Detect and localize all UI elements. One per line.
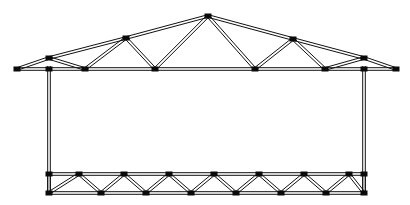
roof-top-chord-0-edge-a bbox=[17, 59, 49, 70]
floor-diagonal-5-edge-a bbox=[168, 175, 190, 194]
joints-group bbox=[14, 14, 400, 196]
roof-web-4-edge-b bbox=[209, 15, 256, 68]
roof-web-2-edge-b bbox=[127, 37, 156, 68]
joint-left-upper-panel bbox=[123, 36, 130, 41]
roof-web-3-edge-b bbox=[156, 17, 209, 70]
roof-top-chord-5-edge-a bbox=[364, 59, 396, 70]
joint-right-upper-panel bbox=[290, 37, 297, 42]
joint-floor-bottom-right bbox=[361, 191, 368, 196]
joint-floor-bottom-5 bbox=[278, 191, 285, 196]
roof-top-chord-3-edge-b bbox=[208, 15, 293, 38]
floor-diagonal-6-edge-a bbox=[192, 175, 215, 194]
truss-diagram-canvas bbox=[0, 0, 410, 205]
joint-left-eave-tip bbox=[14, 67, 21, 72]
floor-diagonal-1-edge-b bbox=[80, 173, 102, 192]
floor-diagonal-2-edge-a bbox=[102, 175, 125, 194]
floor-diagonal-1-edge-a bbox=[78, 175, 100, 194]
joint-bottom-chord-3 bbox=[252, 67, 259, 72]
roof-web-0-edge-a bbox=[49, 59, 85, 70]
floor-diagonal-4-edge-a bbox=[147, 175, 170, 194]
floor-diagonal-4-edge-b bbox=[145, 173, 168, 192]
joint-floor-bottom-4 bbox=[233, 191, 240, 196]
floor-diagonal-10-edge-b bbox=[280, 173, 303, 192]
roof-truss-group bbox=[17, 15, 397, 71]
floor-diagonal-7-edge-b bbox=[215, 173, 237, 192]
roof-top-chord-1-edge-a bbox=[49, 39, 126, 59]
joint-floor-bottom-3 bbox=[188, 191, 195, 196]
roof-web-5-edge-b bbox=[256, 40, 294, 70]
joint-floor-top-7 bbox=[346, 172, 353, 177]
roof-web-5-edge-a bbox=[254, 38, 292, 68]
joint-floor-top-2 bbox=[121, 172, 128, 177]
floor-diagonal-8-edge-b bbox=[235, 173, 258, 192]
floor-truss-group bbox=[48, 173, 366, 195]
roof-web-3-edge-a bbox=[154, 15, 207, 68]
joint-floor-top-1 bbox=[76, 172, 83, 177]
roof-web-2-edge-a bbox=[125, 39, 154, 70]
floor-diagonal-5-edge-b bbox=[170, 173, 192, 192]
joint-floor-bottom-1 bbox=[98, 191, 105, 196]
joint-right-eave-tip bbox=[393, 67, 400, 72]
floor-diagonal-3-edge-b bbox=[125, 173, 147, 192]
floor-diagonal-8-edge-a bbox=[237, 175, 260, 194]
roof-top-chord-1-edge-b bbox=[49, 37, 126, 57]
joint-floor-top-6 bbox=[301, 172, 308, 177]
floor-diagonal-6-edge-b bbox=[190, 173, 213, 192]
floor-diagonal-7-edge-a bbox=[213, 175, 235, 194]
roof-top-chord-4-edge-a bbox=[293, 40, 364, 59]
joint-apex bbox=[205, 14, 212, 19]
roof-web-1-edge-a bbox=[84, 37, 125, 68]
joint-floor-bottom-6 bbox=[323, 191, 330, 196]
floor-diagonal-3-edge-a bbox=[123, 175, 145, 194]
floor-diagonal-9-edge-a bbox=[258, 175, 280, 194]
joint-bottom-chord-1 bbox=[82, 67, 89, 72]
roof-web-1-edge-b bbox=[86, 39, 127, 70]
truss-drawing bbox=[0, 0, 410, 205]
roof-web-7-edge-a bbox=[325, 57, 364, 68]
joint-left-eave-top bbox=[46, 56, 53, 61]
joint-right-column-top bbox=[361, 67, 368, 72]
floor-diagonal-11-edge-a bbox=[303, 175, 325, 194]
floor-diagonal-11-edge-b bbox=[305, 173, 327, 192]
joint-floor-top-4 bbox=[211, 172, 218, 177]
floor-diagonal-12-edge-a bbox=[327, 175, 350, 194]
roof-web-0-edge-b bbox=[49, 57, 85, 68]
roof-web-7-edge-b bbox=[325, 59, 364, 70]
joint-right-eave-top bbox=[361, 56, 368, 61]
floor-diagonal-10-edge-a bbox=[282, 175, 305, 194]
joint-left-column-top bbox=[46, 67, 53, 72]
joint-floor-top-right bbox=[361, 172, 368, 177]
joint-floor-bottom-left bbox=[46, 191, 53, 196]
joint-bottom-chord-4 bbox=[322, 67, 329, 72]
roof-top-chord-2-edge-b bbox=[126, 15, 208, 37]
joint-bottom-chord-2 bbox=[152, 67, 159, 72]
floor-diagonal-9-edge-b bbox=[260, 173, 282, 192]
floor-diagonal-12-edge-b bbox=[325, 173, 348, 192]
roof-top-chord-2-edge-a bbox=[126, 17, 208, 39]
joint-floor-top-5 bbox=[256, 172, 263, 177]
roof-top-chord-0-edge-b bbox=[17, 57, 49, 68]
joint-floor-top-3 bbox=[166, 172, 173, 177]
joint-floor-top-left bbox=[46, 172, 53, 177]
roof-top-chord-5-edge-b bbox=[364, 57, 396, 68]
joint-floor-bottom-2 bbox=[143, 191, 150, 196]
floor-diagonal-2-edge-b bbox=[100, 173, 123, 192]
